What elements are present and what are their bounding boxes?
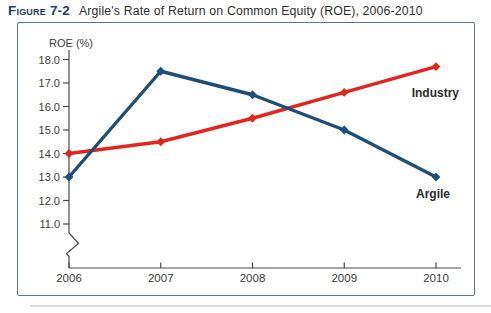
y-tick-label: 17.0: [39, 77, 60, 89]
industry-data-point: [65, 149, 74, 158]
y-tick-label: 12.0: [39, 195, 60, 207]
figure-number-label: Figure 7-2: [8, 3, 70, 18]
industry-series-label: Industry: [412, 86, 460, 100]
y-axis-title: ROE (%): [49, 37, 93, 49]
argile-line: [69, 71, 436, 177]
y-tick-label: 13.0: [39, 171, 60, 183]
x-tick-label: 2008: [240, 272, 266, 284]
x-tick-label: 2007: [148, 272, 174, 284]
y-tick-label: 15.0: [39, 124, 60, 136]
industry-data-point: [340, 88, 349, 97]
chart-frame: ROE (%) 18.017.016.015.014.013.012.011.0…: [17, 22, 475, 296]
y-tick-label: 16.0: [39, 101, 60, 113]
x-axis-ticks: 20062007200820092010: [56, 263, 449, 285]
y-tick-label: 14.0: [39, 148, 60, 160]
y-tick-label: 18.0: [39, 54, 60, 66]
figure-caption: Argile's Rate of Return on Common Equity…: [79, 4, 423, 18]
x-tick-label: 2010: [423, 272, 449, 284]
x-tick-label: 2009: [331, 272, 357, 284]
data-series-lines: [65, 62, 441, 181]
figure-title-row: Figure 7-2Argile's Rate of Return on Com…: [8, 1, 488, 19]
x-tick-label: 2006: [56, 272, 82, 284]
argile-data-point: [248, 90, 257, 99]
y-tick-label: 11.0: [39, 218, 60, 230]
page-edge-shadow: [30, 305, 491, 307]
industry-line: [69, 67, 436, 154]
industry-data-point: [248, 114, 257, 123]
industry-data-point: [432, 62, 441, 71]
argile-series-label: Argile: [416, 187, 450, 201]
roe-line-chart: ROE (%) 18.017.016.015.014.013.012.011.0…: [18, 23, 473, 294]
y-axis-ticks: 18.017.016.015.014.013.012.011.0: [39, 54, 69, 231]
industry-data-point: [156, 137, 165, 146]
